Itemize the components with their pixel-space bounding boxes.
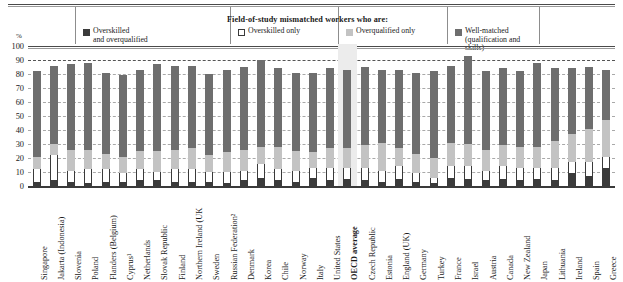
bar-canada[interactable] bbox=[499, 68, 507, 186]
bar-segment-overskilled-only bbox=[153, 172, 161, 180]
bar-segment-well-matched bbox=[136, 70, 144, 151]
x-tick-turkey: Turkey bbox=[437, 256, 446, 280]
bar-cyprus[interactable] bbox=[119, 75, 127, 186]
bar-czech-republic[interactable] bbox=[361, 67, 369, 186]
bar-austria[interactable] bbox=[482, 71, 490, 186]
bar-segment-overqualified-only bbox=[84, 150, 92, 170]
bar-segment-overskilled-only bbox=[309, 168, 317, 178]
bar-slot bbox=[408, 46, 425, 186]
legend-swatch-icon-overskilled-and-overqualified bbox=[83, 29, 90, 36]
bar-slot bbox=[494, 46, 511, 186]
bar-norway[interactable] bbox=[292, 73, 300, 186]
bar-segment-well-matched bbox=[171, 66, 179, 150]
bar-segment-overskilled-only bbox=[257, 164, 265, 178]
bar-israel[interactable] bbox=[464, 56, 472, 186]
bar-turkey[interactable] bbox=[430, 71, 438, 186]
bar-france[interactable] bbox=[447, 66, 455, 186]
bar-slot bbox=[132, 46, 149, 186]
bar-slot bbox=[425, 46, 442, 186]
bar-slot bbox=[45, 46, 62, 186]
bar-slot bbox=[63, 46, 80, 186]
bar-sweden[interactable] bbox=[205, 74, 213, 186]
bar-greece[interactable] bbox=[602, 70, 610, 186]
bar-segment-well-matched bbox=[223, 70, 231, 153]
bar-slovak-republic[interactable] bbox=[153, 64, 161, 186]
bar-segment-overskilled-only bbox=[551, 168, 559, 181]
x-tick-oecd-average: OECD average bbox=[350, 226, 359, 280]
bar-segment-well-matched bbox=[585, 67, 593, 129]
bar-segment-overskilled-only bbox=[326, 168, 334, 181]
bar-segment-well-matched bbox=[602, 70, 610, 120]
bar-segment-overqualified-only bbox=[568, 134, 576, 162]
bar-segment-well-matched bbox=[516, 71, 524, 147]
bar-segment-overskilled-only bbox=[464, 166, 472, 179]
bar-korea[interactable] bbox=[257, 60, 265, 186]
y-tick-100: 100 bbox=[2, 42, 24, 51]
x-tick-japan: Japan bbox=[540, 261, 549, 280]
bar-poland[interactable] bbox=[84, 63, 92, 186]
bar-ireland[interactable] bbox=[568, 68, 576, 186]
bar-segment-overskilled-only bbox=[119, 173, 127, 181]
bar-segment-overskilled-only bbox=[33, 169, 41, 182]
bar-segment-overskilled-only bbox=[50, 155, 58, 180]
bar-estonia[interactable] bbox=[378, 70, 386, 186]
bar-segment-overqualified-only bbox=[395, 148, 403, 166]
bar-singapore[interactable] bbox=[33, 71, 41, 186]
bar-slot bbox=[580, 46, 597, 186]
bar-slot bbox=[166, 46, 183, 186]
x-tick-northern-ireland-uk: Northern Ireland (UK bbox=[195, 208, 204, 280]
bar-segment-well-matched bbox=[274, 68, 282, 146]
bar-segment-overqualified-only bbox=[464, 144, 472, 166]
bar-segment-well-matched bbox=[240, 67, 248, 150]
bar-japan[interactable] bbox=[533, 63, 541, 186]
bar-oecd-average[interactable] bbox=[343, 70, 351, 186]
bar-jakarta-indonesia[interactable] bbox=[50, 66, 58, 186]
bar-chile[interactable] bbox=[274, 68, 282, 186]
legend-item-overskilled-and-overqualified: Overskilled and overqualified bbox=[83, 27, 148, 44]
bar-segment-overskilled-only bbox=[67, 171, 75, 182]
bar-netherlands[interactable] bbox=[136, 70, 144, 186]
bar-lithuania[interactable] bbox=[551, 68, 559, 186]
bar-denmark[interactable] bbox=[240, 67, 248, 186]
y-tick-80: 80 bbox=[2, 70, 24, 79]
bar-segment-both bbox=[309, 178, 317, 186]
bar-segment-well-matched bbox=[188, 66, 196, 149]
bar-segment-overqualified-only bbox=[602, 120, 610, 156]
bar-slovenia[interactable] bbox=[67, 64, 75, 186]
legend-label-overskilled-and-overqualified: Overskilled and overqualified bbox=[93, 27, 148, 44]
bar-segment-overskilled-only bbox=[188, 169, 196, 182]
y-tick-70: 70 bbox=[2, 84, 24, 93]
y-axis-unit: % bbox=[16, 32, 22, 40]
bar-italy[interactable] bbox=[309, 73, 317, 186]
legend-title: Field-of-study mismatched workers who ar… bbox=[75, 15, 540, 24]
bar-segment-well-matched bbox=[50, 66, 58, 144]
bar-segment-overqualified-only bbox=[136, 151, 144, 169]
y-tick-30: 30 bbox=[2, 140, 24, 149]
bar-segment-overqualified-only bbox=[171, 150, 179, 170]
y-tick-60: 60 bbox=[2, 98, 24, 107]
x-tick-france: France bbox=[454, 257, 463, 280]
bar-germany[interactable] bbox=[412, 73, 420, 186]
bar-segment-both bbox=[257, 178, 265, 186]
y-tick-10: 10 bbox=[2, 168, 24, 177]
legend-item-overskilled-only: Overskilled only bbox=[238, 27, 300, 36]
bar-segment-well-matched bbox=[33, 71, 41, 156]
bar-segment-both bbox=[568, 173, 576, 186]
bar-northern-ireland-uk[interactable] bbox=[188, 66, 196, 186]
bar-segment-overskilled-only bbox=[171, 169, 179, 182]
bar-spain[interactable] bbox=[585, 67, 593, 186]
bar-segment-well-matched bbox=[205, 74, 213, 155]
bar-new-zealand[interactable] bbox=[516, 71, 524, 186]
bar-slot bbox=[460, 46, 477, 186]
bar-segment-well-matched bbox=[412, 73, 420, 154]
bar-england-uk[interactable] bbox=[395, 70, 403, 186]
x-tick-flanders-belgium: Flanders (Belgium) bbox=[109, 215, 118, 280]
chart-root: Field-of-study mismatched workers who ar… bbox=[0, 0, 623, 282]
bar-finland[interactable] bbox=[171, 66, 179, 186]
x-tick-poland: Poland bbox=[91, 257, 100, 280]
bar-segment-overskilled-only bbox=[205, 172, 213, 182]
bar-united-states[interactable] bbox=[326, 68, 334, 186]
bar-segment-overqualified-only bbox=[223, 152, 231, 172]
bar-russian-federation[interactable] bbox=[223, 70, 231, 186]
bar-flanders-belgium[interactable] bbox=[102, 73, 110, 186]
